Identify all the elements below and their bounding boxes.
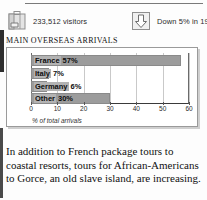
x-tick-mark: [31, 102, 32, 105]
x-tick-label: 40: [133, 105, 140, 112]
left-gutter-mark-top: [0, 30, 4, 72]
bar-row: France57%: [31, 55, 189, 66]
x-tick-mark: [163, 102, 164, 105]
infographic-page: 233,512 visitors Down 5% in 1991 MAIN OV…: [0, 0, 207, 200]
bar-label: Germany6%: [32, 81, 81, 92]
bar-label-category: Germany: [34, 82, 69, 91]
x-tick-label: 30: [106, 105, 113, 112]
x-tick-mark: [136, 102, 137, 105]
down-arrow-icon: [130, 9, 152, 33]
x-tick-label: 10: [54, 105, 61, 112]
stat-visitors-label: 233,512 visitors: [33, 17, 87, 26]
x-tick-label: 20: [80, 105, 87, 112]
gridline: [189, 53, 190, 104]
suitcase-icon: [6, 9, 28, 33]
x-tick-mark: [110, 102, 111, 105]
bar-row: Italy7%: [31, 68, 189, 79]
x-tick-mark: [84, 102, 85, 105]
stat-visitors: 233,512 visitors: [6, 8, 87, 34]
section-title: MAIN OVERSEAS ARRIVALS: [6, 36, 118, 45]
stat-change: Down 5% in 1991: [130, 8, 207, 34]
bar-label-value: 6%: [69, 82, 82, 91]
bar-label-category: Italy: [34, 69, 51, 78]
x-tick-label: 50: [159, 105, 166, 112]
bar-label-value: 30%: [56, 94, 73, 103]
bar-label-category: Other: [34, 94, 56, 103]
x-axis-title: % of total arrivals: [32, 117, 82, 124]
x-tick-mark: [57, 102, 58, 105]
x-axis-ticks: 0102030405060: [31, 105, 189, 115]
x-tick-label: 0: [29, 105, 33, 112]
bar-rows: France57%Italy7%Germany6%Other30%: [31, 53, 189, 104]
x-tick-mark: [189, 102, 190, 105]
x-tick-label: 60: [185, 105, 192, 112]
bar-label-value: 7%: [51, 69, 64, 78]
bar-row: Germany6%: [31, 81, 189, 92]
bar-label-category: France: [34, 56, 61, 65]
bar-label-value: 57%: [61, 56, 78, 65]
bar-label: France57%: [32, 55, 78, 66]
bar-label: Italy7%: [32, 68, 64, 79]
bar-label: Other30%: [32, 93, 73, 104]
left-gutter-mark-bottom: [0, 128, 3, 198]
article-paragraph: In addition to French package tours to c…: [6, 145, 202, 186]
top-divider: [25, 3, 203, 4]
stat-change-label: Down 5% in 1991: [157, 17, 207, 26]
stats-row: 233,512 visitors Down 5% in 1991: [6, 8, 204, 34]
plot-area: France57%Italy7%Germany6%Other30%: [31, 53, 189, 104]
bar-chart-panel: France57%Italy7%Germany6%Other30% 010203…: [6, 47, 198, 127]
